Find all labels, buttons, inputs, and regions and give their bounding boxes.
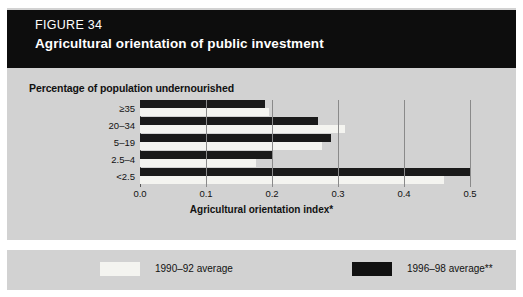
chart-area: Percentage of population undernourished … xyxy=(7,68,516,240)
bar-1990-92-≥35 xyxy=(140,108,269,116)
y-tick-label: 5–19 xyxy=(75,137,135,148)
plot-bars xyxy=(140,100,470,185)
x-tick-label: 0.0 xyxy=(125,188,155,199)
y-tick-label: 2.5–4 xyxy=(75,154,135,165)
gridline-0.1 xyxy=(206,100,207,187)
x-tick-label: 0.5 xyxy=(455,188,485,199)
legend-label-1996-98: 1996–98 average** xyxy=(407,262,493,276)
x-axis-title: Agricultural orientation index* xyxy=(7,204,516,215)
y-tick-label: ≥35 xyxy=(75,103,135,114)
bar-1990-92-20–34 xyxy=(140,125,345,133)
bar-1996-98-5–19 xyxy=(140,134,331,142)
y-tick-label: 20–34 xyxy=(75,120,135,131)
figure-number: FIGURE 34 xyxy=(35,18,102,32)
legend-swatch-1990-92 xyxy=(100,262,140,276)
gridline-0.3 xyxy=(338,100,339,187)
chart-legend: 1990–92 average 1996–98 average** xyxy=(7,250,516,290)
figure-title: Agricultural orientation of public inves… xyxy=(35,36,324,51)
gridline-0.2 xyxy=(272,100,273,187)
bar-1996-98-≥35 xyxy=(140,100,265,108)
x-tick-label: 0.4 xyxy=(389,188,419,199)
figure-card: FIGURE 34 Agricultural orientation of pu… xyxy=(7,8,516,290)
bar-1996-98-20–34 xyxy=(140,117,318,125)
legend-divider xyxy=(7,240,516,250)
chart-subtitle: Percentage of population undernourished xyxy=(29,82,234,94)
y-tick-label: <2.5 xyxy=(75,171,135,182)
bar-1990-92-5–19 xyxy=(140,142,322,150)
figure-header-band: FIGURE 34 Agricultural orientation of pu… xyxy=(7,10,516,68)
y-axis-category-labels: ≥3520–345–192.5–4<2.5 xyxy=(75,100,135,185)
x-axis-tick-labels: 0.00.10.20.30.40.5 xyxy=(7,188,516,202)
legend-label-1990-92: 1990–92 average xyxy=(155,262,233,276)
bar-1996-98-<2.5 xyxy=(140,168,470,176)
legend-swatch-1996-98 xyxy=(352,262,392,276)
bar-1990-92-2.5–4 xyxy=(140,159,256,167)
bar-1990-92-<2.5 xyxy=(140,176,444,184)
gridline-0.5 xyxy=(470,100,471,187)
x-tick-label: 0.3 xyxy=(323,188,353,199)
x-tick-label: 0.1 xyxy=(191,188,221,199)
gridline-0.4 xyxy=(404,100,405,187)
x-tick-label: 0.2 xyxy=(257,188,287,199)
